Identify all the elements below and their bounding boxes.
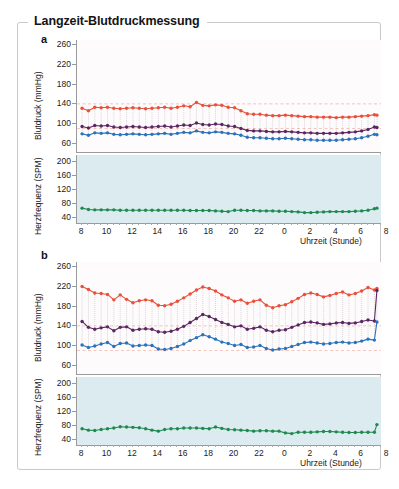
data-point: [138, 344, 141, 347]
x-tick-16: 16: [172, 226, 194, 236]
data-point: [207, 315, 210, 318]
y-tick-120: 120: [45, 184, 71, 194]
panel-a-bp-svg: [77, 40, 381, 152]
x-minor-tick: [348, 445, 349, 447]
x-minor-tick: [265, 223, 266, 225]
x-minor-tick: [310, 445, 311, 447]
data-point: [290, 137, 293, 140]
data-point: [303, 138, 306, 141]
x-tick-16: 16: [172, 448, 194, 458]
data-point: [341, 131, 344, 134]
x-minor-tick: [113, 223, 114, 225]
x-minor-tick: [215, 445, 216, 447]
x-minor-tick: [113, 445, 114, 447]
data-point: [366, 318, 369, 321]
x-minor-tick: [215, 223, 216, 225]
data-point: [315, 293, 318, 296]
data-point: [138, 426, 141, 429]
data-point: [258, 112, 261, 115]
x-minor-tick: [297, 445, 298, 447]
data-point: [271, 209, 274, 212]
data-point: [220, 123, 223, 126]
x-minor-tick: [145, 445, 146, 447]
x-tick-12: 12: [121, 226, 143, 236]
data-point: [99, 292, 102, 295]
data-point: [80, 132, 83, 135]
data-point: [112, 298, 115, 301]
data-point: [207, 287, 210, 290]
data-point: [233, 344, 236, 347]
data-point: [87, 109, 90, 112]
data-point: [201, 313, 204, 316]
data-point: [201, 131, 204, 134]
data-point: [80, 107, 83, 110]
x-minor-tick: [151, 223, 152, 225]
data-point: [125, 209, 128, 212]
data-point: [188, 131, 191, 134]
data-point: [163, 132, 166, 135]
x-minor-tick: [107, 223, 108, 225]
panel-a-bp-plot: [76, 40, 381, 153]
data-point: [93, 124, 96, 127]
data-point: [354, 321, 357, 324]
x-tick-2: 2: [299, 448, 321, 458]
data-point: [252, 112, 255, 115]
data-point: [93, 208, 96, 211]
data-point: [169, 330, 172, 333]
data-point: [366, 114, 369, 117]
data-point: [150, 344, 153, 347]
x-minor-tick: [126, 223, 127, 225]
data-point: [233, 125, 236, 128]
data-point: [99, 132, 102, 135]
data-point: [144, 427, 147, 430]
x-tick-20: 20: [223, 448, 245, 458]
data-point: [169, 133, 172, 136]
data-point: [315, 115, 318, 118]
data-point: [328, 132, 331, 135]
data-point: [309, 131, 312, 134]
data-point: [207, 131, 210, 134]
x-minor-tick: [157, 223, 158, 225]
data-point: [239, 298, 242, 301]
data-point: [322, 132, 325, 135]
data-point: [246, 209, 249, 212]
data-point: [328, 322, 331, 325]
data-point: [227, 296, 230, 299]
data-point: [265, 304, 268, 307]
x-minor-tick: [176, 223, 177, 225]
x-tick-22: 22: [248, 226, 270, 236]
data-point: [80, 285, 83, 288]
data-point: [93, 328, 96, 331]
data-point: [375, 133, 378, 136]
data-point: [233, 300, 236, 303]
data-point: [195, 288, 198, 291]
data-point: [80, 206, 83, 209]
x-minor-tick: [253, 223, 254, 225]
y-tick-160: 160: [45, 392, 71, 402]
data-point: [246, 429, 249, 432]
data-point: [176, 427, 179, 430]
x-minor-tick: [246, 445, 247, 447]
data-point: [207, 427, 210, 430]
data-point: [258, 344, 261, 347]
x-minor-tick: [100, 223, 101, 225]
data-point: [335, 292, 338, 295]
data-point: [271, 330, 274, 333]
data-point: [366, 135, 369, 138]
x-minor-tick: [291, 223, 292, 225]
data-point: [347, 322, 350, 325]
data-point: [131, 209, 134, 212]
data-point: [265, 209, 268, 212]
data-point: [335, 116, 338, 119]
data-point: [296, 343, 299, 346]
x-minor-tick: [297, 223, 298, 225]
data-point: [176, 209, 179, 212]
data-point: [277, 304, 280, 307]
data-point: [328, 342, 331, 345]
x-minor-tick: [189, 223, 190, 225]
data-point: [207, 104, 210, 107]
data-point: [233, 325, 236, 328]
data-point: [99, 106, 102, 109]
x-minor-tick: [234, 223, 235, 225]
x-minor-tick: [272, 445, 273, 447]
